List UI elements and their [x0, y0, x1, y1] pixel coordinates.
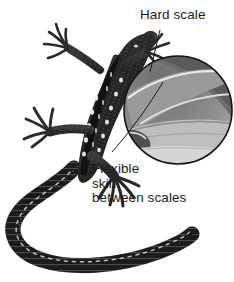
label-flexible-skin-line1: Flexible [92, 162, 186, 177]
label-flexible-skin-line2: skin [92, 177, 186, 192]
label-flexible-skin-line3: between scales [92, 191, 186, 206]
label-hard-scale-text: Hard scale [140, 8, 206, 23]
label-flexible-skin: Flexible skin between scales [92, 162, 186, 206]
hard-scale-leader-line [150, 30, 160, 72]
flexible-skin-leader-line [112, 82, 163, 152]
lizard-scales-figure: Hard scale Flexible skin between scales [0, 0, 234, 282]
leader-lines [0, 0, 234, 282]
label-hard-scale: Hard scale [140, 8, 206, 23]
